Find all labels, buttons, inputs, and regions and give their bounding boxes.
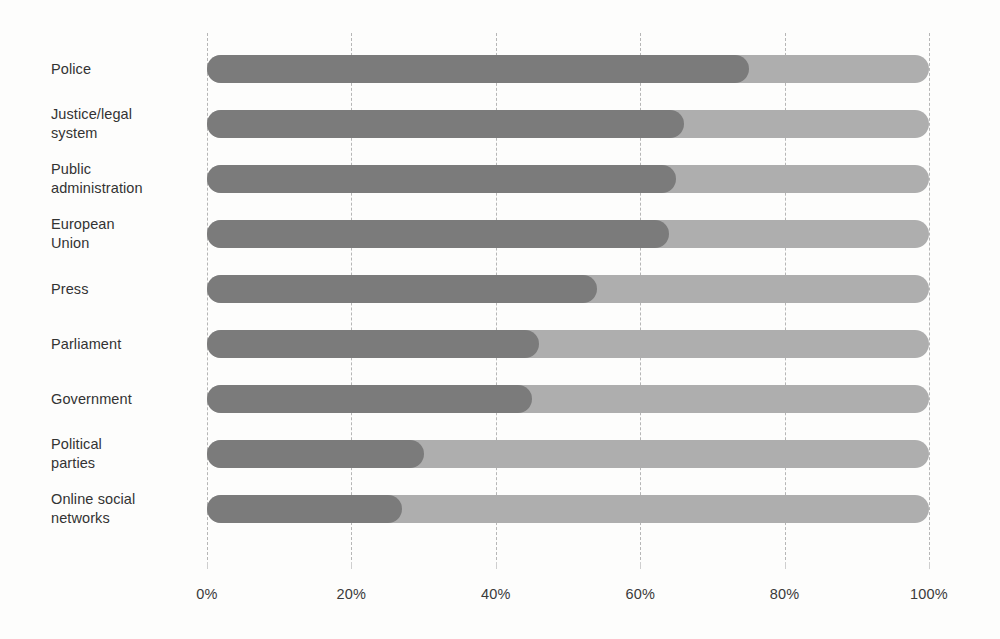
category-label-political-parties: Politicalparties	[51, 435, 201, 473]
bar-row	[207, 110, 929, 138]
tick-mark-100pct	[929, 562, 930, 569]
bar-row	[207, 495, 929, 523]
category-label-public-administration: Publicadministration	[51, 160, 201, 198]
category-label-line: Police	[51, 60, 201, 79]
category-label-line: Union	[51, 234, 201, 253]
category-label-line: European	[51, 215, 201, 234]
bar-row	[207, 385, 929, 413]
bar-row	[207, 165, 929, 193]
category-label-police: Police	[51, 60, 201, 79]
bar-segment-dark	[207, 275, 597, 303]
category-label-line: administration	[51, 179, 201, 198]
x-tick-label: 0%	[196, 586, 217, 602]
category-label-european-union: EuropeanUnion	[51, 215, 201, 253]
tick-mark-20pct	[351, 562, 352, 569]
gridline-100pct	[929, 33, 930, 560]
stacked-bar-chart: PoliceJustice/legalsystemPublicadministr…	[0, 0, 1000, 639]
category-label-justice-legal-system: Justice/legalsystem	[51, 105, 201, 143]
bar-segment-dark	[207, 55, 749, 83]
bar-segment-dark	[207, 440, 424, 468]
category-label-online-social-networks: Online socialnetworks	[51, 490, 201, 528]
category-label-line: Online social	[51, 490, 201, 509]
x-tick-label: 20%	[337, 586, 367, 602]
bar-row	[207, 55, 929, 83]
category-label-line: Parliament	[51, 335, 201, 354]
category-label-parliament: Parliament	[51, 335, 201, 354]
x-tick-label: 40%	[481, 586, 511, 602]
category-label-line: Government	[51, 390, 201, 409]
bar-row	[207, 440, 929, 468]
category-label-line: system	[51, 124, 201, 143]
bar-segment-dark	[207, 220, 669, 248]
bar-segment-dark	[207, 165, 676, 193]
category-label-line: Press	[51, 280, 201, 299]
bar-segment-dark	[207, 385, 532, 413]
bar-segment-dark	[207, 495, 402, 523]
bar-segment-dark	[207, 330, 539, 358]
bar-row	[207, 330, 929, 358]
tick-mark-60pct	[640, 562, 641, 569]
category-label-line: networks	[51, 509, 201, 528]
x-tick-label: 100%	[910, 586, 948, 602]
tick-mark-40pct	[496, 562, 497, 569]
tick-mark-0pct	[207, 562, 208, 569]
category-label-line: parties	[51, 454, 201, 473]
category-label-line: Political	[51, 435, 201, 454]
category-label-line: Justice/legal	[51, 105, 201, 124]
category-label-line: Public	[51, 160, 201, 179]
bar-segment-dark	[207, 110, 684, 138]
x-tick-label: 80%	[770, 586, 800, 602]
bar-row	[207, 275, 929, 303]
plot-area	[207, 0, 929, 639]
category-label-press: Press	[51, 280, 201, 299]
tick-mark-80pct	[785, 562, 786, 569]
x-tick-label: 60%	[625, 586, 655, 602]
bar-row	[207, 220, 929, 248]
category-label-government: Government	[51, 390, 201, 409]
